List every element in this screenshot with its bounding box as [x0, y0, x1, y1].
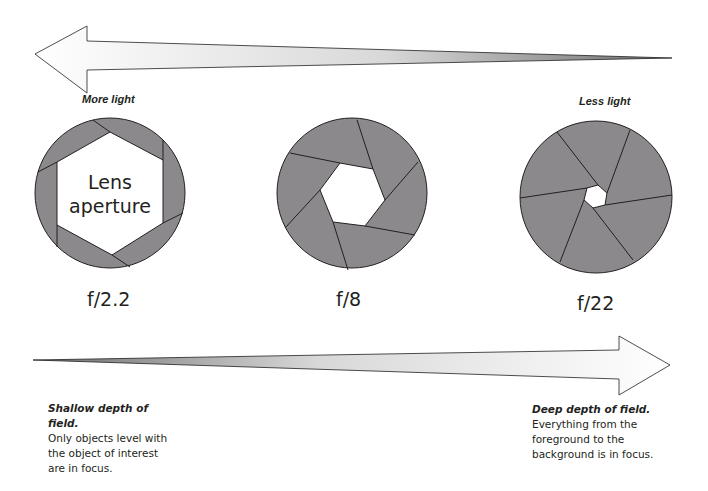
fstop-label-f22: f/22 [577, 292, 614, 314]
lens-label: Lens [88, 171, 132, 193]
aperture-label: aperture [69, 195, 151, 217]
shallow-dof-caption: Shallow depth of field. Only objects lev… [48, 401, 178, 476]
aperture-f22 [520, 121, 672, 273]
aperture-f8 [277, 118, 427, 270]
fstop-label-f2-2: f/2.2 [87, 288, 130, 310]
shallow-dof-line: Only objects level with [48, 431, 178, 446]
depth-of-field-arrow [33, 336, 670, 395]
aperture-f2-2: Lens aperture [35, 118, 185, 268]
shallow-dof-line: the object of interest [48, 446, 178, 461]
shallow-dof-title: Shallow depth of field. [48, 401, 178, 431]
deep-dof-title: Deep depth of field. [532, 402, 692, 417]
less-light-label: Less light [579, 95, 632, 107]
deep-dof-caption: Deep depth of field. Everything from the… [532, 402, 692, 462]
more-light-label: More light [82, 93, 136, 105]
deep-dof-line: Everything from the [532, 417, 692, 432]
shallow-dof-line: are in focus. [48, 461, 178, 476]
more-light-arrow [35, 26, 672, 93]
deep-dof-line: background is in focus. [532, 447, 692, 462]
fstop-label-f8: f/8 [336, 288, 361, 310]
deep-dof-line: foreground to the [532, 432, 692, 447]
